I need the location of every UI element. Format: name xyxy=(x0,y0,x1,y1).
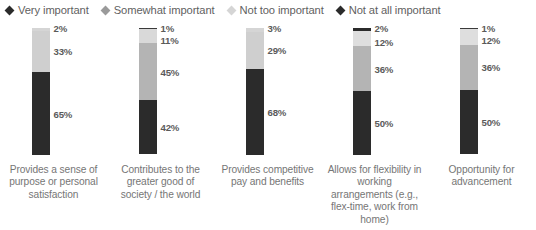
chart-column-2: 3%29%68%Provides competitive pay and ben… xyxy=(214,20,321,230)
segment-value-label: 50% xyxy=(482,116,501,127)
stacked-bar[interactable]: 3%29%68% xyxy=(246,28,264,155)
segment-value-label: 1% xyxy=(161,23,174,34)
stacked-bar[interactable]: 1%11%45%42% xyxy=(139,28,157,155)
bar-segment[interactable]: 50% xyxy=(353,91,371,155)
category-label: Opportunity for advancement xyxy=(428,164,535,189)
stacked-bar[interactable]: 2%33%65% xyxy=(32,28,50,155)
category-label: Contributes to the greater good of socie… xyxy=(107,164,214,201)
segment-value-label: 36% xyxy=(375,63,394,74)
segment-value-label: 12% xyxy=(375,37,394,48)
bar-segment[interactable]: 11% xyxy=(139,29,157,43)
plot-area: 2%33%65%Provides a sense of purpose or p… xyxy=(0,0,536,230)
category-label: Allows for flexibility in working arrang… xyxy=(321,164,428,226)
segment-value-label: 3% xyxy=(268,23,281,34)
segment-value-label: 42% xyxy=(161,122,180,133)
segment-value-label: 65% xyxy=(54,108,73,119)
segment-value-label: 68% xyxy=(268,106,287,117)
segment-value-label: 12% xyxy=(482,35,501,46)
stacked-bar[interactable]: 1%12%36%50% xyxy=(460,28,478,155)
category-label: Provides competitive pay and benefits xyxy=(214,164,321,189)
bar-segment[interactable]: 50% xyxy=(460,90,478,154)
segment-value-label: 33% xyxy=(54,46,73,57)
bar-segment[interactable]: 45% xyxy=(139,43,157,100)
stacked-bar[interactable]: 2%12%36%50% xyxy=(353,28,371,155)
chart-column-4: 1%12%36%50%Opportunity for advancement xyxy=(428,20,535,230)
chart-column-0: 2%33%65%Provides a sense of purpose or p… xyxy=(0,20,107,230)
bar-segment[interactable]: 36% xyxy=(460,45,478,91)
segment-value-label: 50% xyxy=(375,118,394,129)
segment-value-label: 45% xyxy=(161,66,180,77)
segment-value-label: 11% xyxy=(161,35,179,46)
stacked-bar-chart: Very importantSomewhat importantNot too … xyxy=(0,0,536,230)
bar-segment[interactable]: 68% xyxy=(246,69,264,155)
bar-segment[interactable]: 29% xyxy=(246,32,264,69)
bar-segment[interactable]: 42% xyxy=(139,100,157,153)
segment-value-label: 36% xyxy=(482,62,501,73)
bar-segment[interactable]: 12% xyxy=(353,31,371,46)
bar-segment[interactable]: 12% xyxy=(460,29,478,44)
chart-column-3: 2%12%36%50%Allows for flexibility in wor… xyxy=(321,20,428,230)
category-label: Provides a sense of purpose or personal … xyxy=(0,164,107,201)
chart-column-1: 1%11%45%42%Contributes to the greater go… xyxy=(107,20,214,230)
bar-segment[interactable]: 65% xyxy=(32,72,50,155)
segment-value-label: 2% xyxy=(54,23,67,34)
bar-segment[interactable]: 33% xyxy=(32,31,50,73)
segment-value-label: 29% xyxy=(268,45,287,56)
bar-segment[interactable]: 36% xyxy=(353,46,371,92)
segment-value-label: 2% xyxy=(375,23,388,34)
segment-value-label: 1% xyxy=(482,23,495,34)
